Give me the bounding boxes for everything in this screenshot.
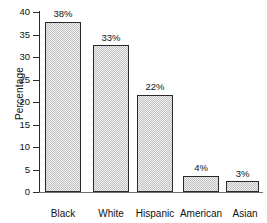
- y-tick-label-5: 5: [8, 165, 30, 175]
- category-label-hispanic: Hispanic: [127, 196, 183, 219]
- category-label-white-line1: White: [98, 208, 124, 219]
- y-tick-label-0: 0: [8, 187, 30, 197]
- bar-value-white: 33%: [93, 33, 129, 43]
- y-axis-label: Percentage: [14, 29, 25, 159]
- y-tick-mark-40: [33, 12, 39, 13]
- bar-chart: Percentage 40 35 30 25 20 15 10 5 0 38% …: [0, 0, 267, 223]
- y-tick-label-25: 25: [8, 75, 30, 85]
- y-tick-mark-15: [33, 125, 39, 126]
- category-label-black: Black: [37, 196, 89, 219]
- y-tick-mark-10: [33, 147, 39, 148]
- y-tick-label-40: 40: [8, 7, 30, 17]
- category-label-asian-line1: Asian: [232, 208, 257, 219]
- bar-black: [45, 22, 81, 192]
- y-tick-label-10: 10: [8, 142, 30, 152]
- y-tick-mark-5: [33, 170, 39, 171]
- bar-hispanic: [137, 95, 173, 192]
- y-tick-mark-25: [33, 80, 39, 81]
- y-tick-mark-20: [33, 102, 39, 103]
- y-tick-mark-35: [33, 35, 39, 36]
- bar-value-hispanic: 22%: [137, 82, 173, 92]
- category-label-asian: Asian: [224, 196, 266, 219]
- bar-white: [93, 45, 129, 192]
- category-label-american-indian: American Indian: [176, 196, 226, 223]
- y-tick-mark-0: [33, 192, 39, 193]
- y-tick-label-30: 30: [8, 52, 30, 62]
- bar-asian: [226, 181, 259, 192]
- y-tick-label-15: 15: [8, 120, 30, 130]
- category-label-american-indian-line1: American: [180, 208, 222, 219]
- bar-value-asian: 3%: [226, 169, 259, 179]
- y-tick-label-20: 20: [8, 97, 30, 107]
- bar-value-american-indian: 4%: [183, 163, 219, 173]
- y-tick-label-35: 35: [8, 30, 30, 40]
- x-axis-line: [39, 192, 263, 193]
- category-label-black-line1: Black: [51, 208, 75, 219]
- y-axis-line: [39, 11, 40, 193]
- bar-value-black: 38%: [45, 9, 81, 19]
- category-label-hispanic-line1: Hispanic: [136, 208, 174, 219]
- y-tick-mark-30: [33, 57, 39, 58]
- bar-american-indian: [183, 176, 219, 192]
